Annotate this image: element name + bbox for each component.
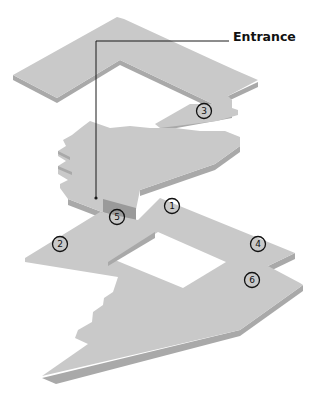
lower-floor [25, 198, 303, 384]
svg-text:3: 3 [201, 106, 207, 116]
svg-text:5: 5 [114, 212, 120, 222]
svg-text:2: 2 [57, 239, 63, 249]
entrance-label: Entrance [233, 29, 296, 44]
svg-text:1: 1 [169, 201, 175, 211]
upper-floor [13, 17, 258, 131]
svg-text:6: 6 [249, 275, 255, 285]
svg-text:4: 4 [255, 239, 261, 249]
floor-plan-diagram: 1 2 3 4 5 6 [0, 0, 319, 402]
